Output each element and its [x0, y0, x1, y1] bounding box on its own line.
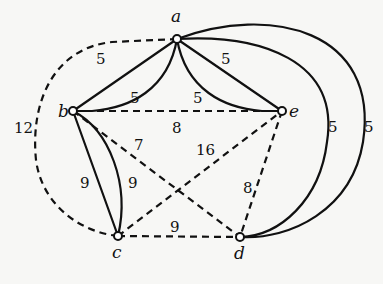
- vertex-d: [236, 233, 244, 241]
- vertex-label-a: a: [171, 6, 181, 26]
- vertex-label-b: b: [58, 101, 69, 121]
- edge-weight-bc-curved: 9: [128, 174, 138, 192]
- edge-weight-ad-inner: 5: [328, 118, 338, 136]
- edge-ce: [118, 111, 282, 236]
- edge-cd: [118, 236, 240, 237]
- edge-weight-cd: 9: [170, 218, 180, 236]
- vertex-c: [114, 232, 122, 240]
- edge-weight-ab-straight: 5: [96, 50, 106, 68]
- vertex-b: [69, 107, 77, 115]
- edge-ab-straight: [73, 39, 177, 111]
- edge-weight-bd: 7: [134, 136, 144, 154]
- vertex-label-d: d: [234, 243, 245, 263]
- weighted-multigraph: 5555559987168912 abcde: [0, 0, 383, 284]
- edge-weight-ae-straight: 5: [221, 50, 231, 68]
- edge-weight-ab-curved: 5: [130, 89, 140, 107]
- edge-weight-ce: 16: [196, 141, 215, 159]
- vertex-label-c: c: [112, 242, 122, 262]
- vertex-label-e: e: [289, 101, 299, 121]
- edge-weight-ac-arc: 12: [14, 119, 33, 137]
- vertex-e: [278, 107, 286, 115]
- vertex-a: [173, 35, 181, 43]
- edge-weight-bc-straight: 9: [80, 174, 90, 192]
- edge-ed: [240, 111, 282, 237]
- edge-weight-ed: 8: [243, 179, 253, 197]
- edge-weight-ae-curved: 5: [193, 89, 203, 107]
- edge-ac-arc: [35, 39, 177, 236]
- edge-bd: [73, 111, 240, 237]
- edge-weight-be: 8: [172, 119, 182, 137]
- edge-weight-ad-outer: 5: [364, 118, 374, 136]
- edges-layer: [35, 24, 365, 237]
